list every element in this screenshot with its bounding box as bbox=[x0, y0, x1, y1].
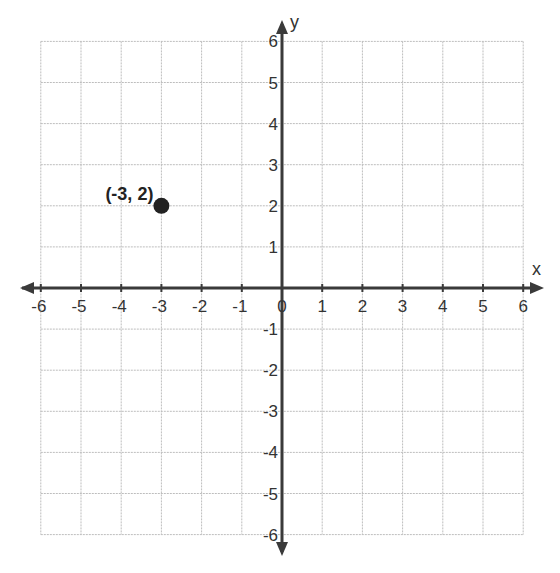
y-axis-label: y bbox=[290, 12, 299, 32]
x-tick-label: -6 bbox=[31, 297, 46, 316]
x-axis-arrow-left-icon bbox=[20, 282, 34, 294]
x-tick-label: 0 bbox=[277, 297, 286, 316]
x-tick-label: 2 bbox=[358, 297, 367, 316]
data-point-label: (-3, 2) bbox=[105, 184, 153, 204]
x-tick-label: -4 bbox=[112, 297, 127, 316]
y-tick-label: -1 bbox=[263, 320, 278, 339]
y-tick-label: 3 bbox=[269, 156, 278, 175]
y-tick-label: -2 bbox=[263, 361, 278, 380]
y-tick-label: 5 bbox=[269, 74, 278, 93]
y-tick-label: -3 bbox=[263, 402, 278, 421]
y-tick-label: -6 bbox=[263, 526, 278, 545]
x-tick-labels: -6-5-4-3-2-10123456 bbox=[31, 297, 528, 316]
data-points: (-3, 2) bbox=[105, 184, 169, 214]
x-tick-label: 6 bbox=[518, 297, 527, 316]
x-tick-label: -1 bbox=[232, 297, 247, 316]
x-tick-label: -3 bbox=[152, 297, 167, 316]
axes bbox=[20, 20, 544, 556]
x-tick-label: 5 bbox=[478, 297, 487, 316]
x-axis-label: x bbox=[532, 259, 541, 279]
x-tick-label: 1 bbox=[317, 297, 326, 316]
y-tick-label: 2 bbox=[269, 197, 278, 216]
x-tick-label: 4 bbox=[438, 297, 447, 316]
data-point bbox=[153, 198, 169, 214]
y-tick-label: 6 bbox=[269, 32, 278, 51]
y-tick-label: -4 bbox=[263, 443, 278, 462]
x-axis-arrow-right-icon bbox=[530, 282, 544, 294]
x-tick-label: -5 bbox=[71, 297, 86, 316]
y-tick-label: -5 bbox=[263, 485, 278, 504]
coordinate-plane: -6-5-4-3-2-10123456 -6-5-4-3-2-1123456 x… bbox=[0, 0, 560, 573]
y-tick-label: 1 bbox=[269, 238, 278, 257]
y-tick-label: 4 bbox=[269, 115, 278, 134]
x-tick-label: -2 bbox=[192, 297, 207, 316]
x-tick-label: 3 bbox=[398, 297, 407, 316]
